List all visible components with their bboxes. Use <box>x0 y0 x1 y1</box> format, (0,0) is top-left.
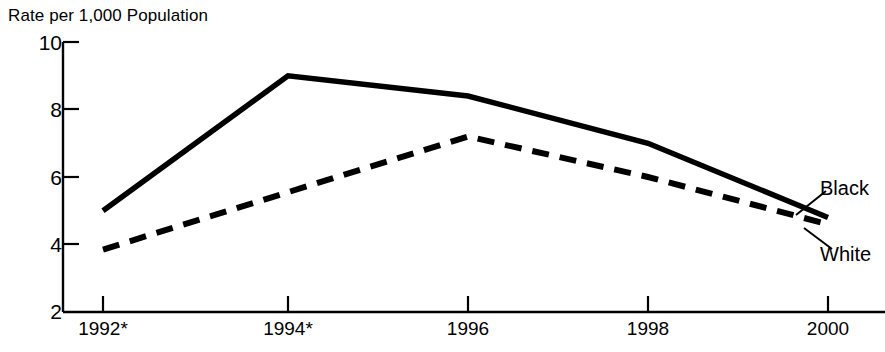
series-line-black <box>103 76 828 218</box>
series-label-black: Black <box>820 177 869 199</box>
series-line-white <box>103 137 828 250</box>
series-label-white: White <box>820 243 871 265</box>
line-chart: Rate per 1,000 Population 10 8 6 4 2 199… <box>0 0 885 352</box>
chart-plot-area <box>0 0 885 352</box>
